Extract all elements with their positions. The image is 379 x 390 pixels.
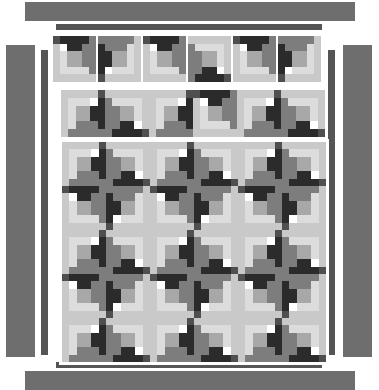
log-round1-bottom <box>157 245 164 267</box>
log-round2-right <box>69 267 106 274</box>
log-round1-top <box>120 121 135 129</box>
log-round2-bottom <box>238 149 245 186</box>
log-round2-right <box>194 186 231 193</box>
log-round1-top <box>105 51 112 66</box>
body-block-r5-c6 <box>282 318 326 362</box>
log-round2-left <box>150 193 157 230</box>
log-centre <box>209 201 224 216</box>
log-round1-left <box>310 98 317 122</box>
log-round2-bottom <box>62 149 69 186</box>
log-round2-left <box>238 193 245 230</box>
log-round2-bottom <box>62 325 69 362</box>
body-block-r1-c1 <box>62 142 106 186</box>
log-round2-top <box>288 129 317 137</box>
log-round2-left <box>193 98 200 137</box>
log-round1-bottom <box>69 157 76 179</box>
log-round2-top <box>99 325 106 354</box>
body-block-r3-c4 <box>194 230 238 274</box>
log-round1-bottom <box>288 98 310 106</box>
log-round1-top <box>67 44 81 52</box>
log-corner-tl <box>143 267 150 274</box>
body-block-r5-c1 <box>62 318 106 362</box>
log-round2-left <box>285 74 321 82</box>
log-round1-bottom <box>307 44 314 67</box>
log-corner-tl <box>99 318 106 325</box>
log-round2-left <box>149 90 186 98</box>
log-round2-top <box>282 193 289 222</box>
log-centre <box>112 51 126 66</box>
log-round1-right <box>201 333 208 355</box>
sashing-block-4 <box>193 90 237 137</box>
log-round1-right <box>289 157 296 179</box>
log-round1-left <box>157 289 164 311</box>
log-round2-right <box>282 237 289 274</box>
log-round1-left <box>135 237 142 259</box>
body-block-r2-c6 <box>282 186 326 230</box>
log-round2-bottom <box>106 318 143 325</box>
log-centre <box>208 106 223 122</box>
log-centre <box>253 157 268 172</box>
log-round1-right <box>76 121 98 129</box>
log-round2-top <box>186 98 193 129</box>
log-round1-top <box>267 245 274 260</box>
log-round2-bottom <box>194 142 231 149</box>
log-centre <box>121 289 136 304</box>
log-round2-right <box>194 325 201 362</box>
log-round2-bottom <box>150 237 157 274</box>
log-round2-bottom <box>105 90 142 98</box>
log-round1-top <box>202 67 216 75</box>
log-round1-bottom <box>135 193 142 215</box>
log-round1-bottom <box>201 325 223 332</box>
log-round1-right <box>267 193 274 215</box>
log-round1-left <box>297 215 319 222</box>
log-round2-right <box>106 149 113 186</box>
body-block-r3-c5 <box>238 230 282 274</box>
log-round2-right <box>106 237 113 274</box>
log-centre <box>77 333 92 348</box>
log-corner-tl <box>282 223 289 230</box>
log-round1-bottom <box>245 157 252 179</box>
log-round1-right <box>77 171 99 178</box>
log-centre <box>297 333 312 348</box>
log-round1-bottom <box>223 281 230 303</box>
log-round1-right <box>288 106 295 130</box>
log-round1-bottom <box>311 281 318 303</box>
log-round2-right <box>179 36 186 74</box>
log-round2-top <box>289 355 318 362</box>
log-centre <box>121 201 136 216</box>
log-round2-left <box>113 223 150 230</box>
log-centre <box>297 157 312 172</box>
log-round1-right <box>267 281 274 303</box>
log-round2-left <box>224 36 231 74</box>
log-round2-bottom <box>319 186 326 223</box>
log-round1-bottom <box>157 67 179 75</box>
top-row-block-5 <box>233 36 276 82</box>
log-round1-left <box>223 325 230 347</box>
log-centre <box>209 333 224 348</box>
log-round1-left <box>150 51 157 74</box>
log-round2-top <box>99 149 106 178</box>
log-round2-top <box>98 98 105 129</box>
log-centre <box>165 157 180 172</box>
log-round2-left <box>62 142 99 149</box>
log-round1-bottom <box>69 333 76 355</box>
log-centre <box>165 333 180 348</box>
top-outer-border-bar <box>25 2 355 21</box>
log-round2-top <box>275 325 282 354</box>
log-centre <box>165 289 180 304</box>
log-round1-right <box>112 106 119 130</box>
log-corner-tl <box>99 230 106 237</box>
log-corner-tl <box>150 274 157 281</box>
log-round1-top <box>285 51 292 66</box>
log-round2-left <box>238 281 245 318</box>
log-corner-tl <box>224 74 231 82</box>
log-round2-left <box>238 230 275 237</box>
log-round2-left <box>143 318 150 355</box>
body-block-r3-c6 <box>282 230 326 274</box>
log-round1-left <box>157 201 164 223</box>
log-round1-top <box>266 106 273 122</box>
log-round1-bottom <box>69 245 76 267</box>
log-corner-tl <box>274 90 281 98</box>
log-round2-left <box>143 230 150 267</box>
log-round1-top <box>289 289 296 304</box>
